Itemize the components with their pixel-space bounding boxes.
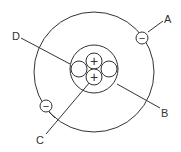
label-d: D: [12, 30, 20, 42]
leader-line-d: [21, 38, 70, 64]
label-b: B: [161, 107, 168, 119]
leader-line-a: [148, 21, 163, 32]
leader-line-b: [117, 84, 160, 108]
neutron-right: [101, 61, 117, 77]
leader-line-electron-left: [49, 112, 55, 118]
atom-diagram: + + − − A B C D: [0, 0, 181, 152]
neutron-left: [71, 61, 87, 77]
proton-top-symbol: +: [90, 53, 98, 69]
proton-bottom-symbol: +: [90, 69, 98, 85]
label-c: C: [36, 134, 44, 146]
label-a: A: [164, 13, 172, 25]
electron-right-symbol: −: [139, 32, 145, 44]
electron-left-symbol: −: [43, 100, 49, 112]
